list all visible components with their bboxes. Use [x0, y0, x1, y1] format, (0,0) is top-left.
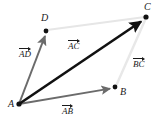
vector-label-bc: BC [133, 56, 145, 69]
point-dot-a [16, 101, 21, 106]
point-dot-d [44, 29, 49, 34]
vector-diagram-figure: A B C D AD AC AB BC [0, 0, 159, 118]
point-dot-c [143, 14, 148, 19]
point-label-c: C [144, 2, 151, 12]
overarrow-icon [133, 56, 145, 60]
vector-label-ad: AD [19, 46, 31, 59]
vector-label-ac: AC [68, 38, 80, 51]
vector-label-ab: AB [62, 103, 73, 116]
overarrow-icon [62, 103, 73, 107]
point-dot-b [113, 85, 118, 90]
point-label-a: A [8, 99, 14, 109]
point-label-b: B [120, 87, 126, 97]
point-label-d: D [41, 13, 48, 23]
overarrow-icon [19, 46, 31, 50]
overarrow-icon [68, 38, 80, 42]
